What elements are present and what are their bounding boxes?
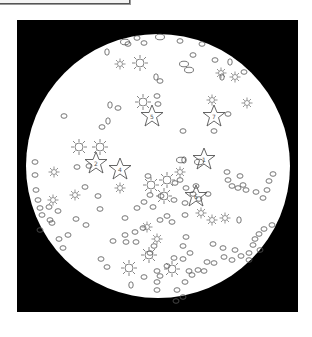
star-label: 7 bbox=[212, 113, 216, 120]
field-of-view: 5 7 2 4 1 6 bbox=[0, 0, 312, 337]
star-label: 5 bbox=[150, 113, 154, 120]
star-label: 1 bbox=[202, 156, 206, 163]
star-label: 4 bbox=[118, 166, 122, 173]
field-circle bbox=[26, 34, 290, 298]
star-label: 2 bbox=[94, 160, 98, 167]
star-label: 6 bbox=[194, 193, 198, 200]
